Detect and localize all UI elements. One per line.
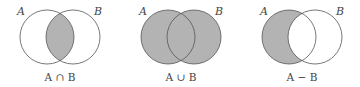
caption-difference: A − B [286, 71, 318, 83]
caption-union: A ∪ B [165, 71, 197, 83]
venn-diagrams: A B A ∩ B A B A ∪ B A B A − B [0, 0, 360, 87]
panel-difference: A B A − B [259, 5, 344, 83]
label-b: B [93, 5, 102, 18]
label-b: B [335, 5, 344, 18]
label-a: A [16, 5, 25, 18]
caption-intersection: A ∩ B [44, 71, 76, 83]
label-a: A [138, 5, 147, 18]
label-b: B [214, 5, 223, 18]
label-a: A [259, 5, 268, 18]
panel-intersection: A B A ∩ B [16, 5, 102, 83]
panel-union: A B A ∪ B [138, 5, 223, 83]
